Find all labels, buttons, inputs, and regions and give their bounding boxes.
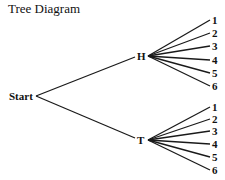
h-leaf-4: 4 [212, 54, 218, 66]
branch-h-label: H [137, 50, 146, 62]
t-leaf-2: 2 [212, 113, 218, 125]
t-edges [148, 107, 210, 170]
h-leaf-2: 2 [212, 27, 218, 39]
h-leaf-6: 6 [212, 80, 218, 92]
root-label: Start [9, 90, 33, 102]
t-leaf-6: 6 [212, 164, 218, 176]
edge-start-t [36, 96, 135, 138]
t-leaf-3: 3 [212, 125, 218, 137]
h-edges [148, 20, 210, 86]
h-leaf-3: 3 [212, 40, 218, 52]
tree-diagram: Start H T 1 2 3 4 5 6 1 2 3 4 5 6 [0, 0, 225, 180]
t-leaf-5: 5 [212, 151, 218, 163]
t-leaf-1: 1 [212, 101, 218, 113]
branch-t-label: T [137, 134, 145, 146]
edge-start-h [36, 57, 135, 96]
h-leaf-5: 5 [212, 67, 218, 79]
h-leaf-1: 1 [212, 14, 218, 26]
t-leaf-4: 4 [212, 138, 218, 150]
